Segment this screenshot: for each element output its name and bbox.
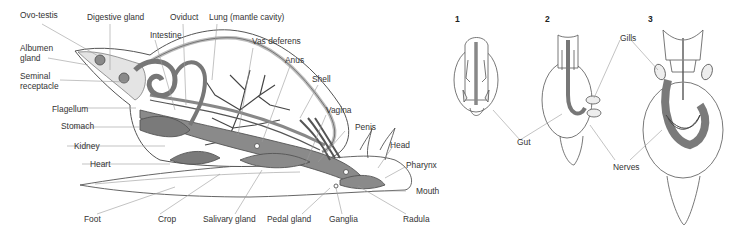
- label-lung-mantle-cavity: Lung (mantle cavity): [209, 12, 284, 22]
- torsion-stage-3-drawing: [643, 30, 723, 225]
- label-pedal-gland: Pedal gland: [267, 214, 311, 224]
- label-shell: Shell: [312, 74, 331, 84]
- label-nerves: Nerves: [613, 162, 640, 172]
- label-anus: Anus: [285, 55, 304, 65]
- label-head: Head: [390, 140, 410, 150]
- label-heart: Heart: [90, 159, 110, 169]
- label-intestine: Intestine: [150, 30, 182, 40]
- label-foot: Foot: [84, 214, 101, 224]
- panel-number-2: 2: [545, 14, 550, 24]
- label-gut: Gut: [517, 137, 531, 147]
- label-albumen-gland-line2: gland: [20, 53, 41, 63]
- label-vagina: Vagina: [326, 105, 351, 115]
- label-digestive-gland: Digestive gland: [87, 12, 144, 22]
- snail-anatomy-figure: Ovo-testis Digestive gland Oviduct Lung …: [0, 0, 740, 239]
- label-seminal-receptacle-line1: Seminal: [20, 71, 50, 81]
- label-mouth: Mouth: [416, 186, 439, 196]
- label-flagellum: Flagellum: [52, 104, 88, 114]
- label-ovo-testis: Ovo-testis: [20, 10, 58, 20]
- label-crop: Crop: [158, 214, 176, 224]
- label-ganglia: Ganglia: [329, 214, 358, 224]
- label-oviduct: Oviduct: [170, 12, 198, 22]
- label-kidney: Kidney: [74, 141, 100, 151]
- torsion-stage-2-drawing: [542, 35, 601, 165]
- panel-number-1: 1: [455, 14, 460, 24]
- label-pharynx: Pharynx: [406, 160, 437, 170]
- label-vas-deferens: Vas deferens: [252, 36, 301, 46]
- torsion-stage-1-drawing: [454, 38, 498, 116]
- snail-body-drawing: [75, 30, 412, 197]
- panel-number-3: 3: [648, 14, 653, 24]
- label-stomach: Stomach: [61, 121, 94, 131]
- label-gills: Gills: [620, 33, 636, 43]
- label-salivary-gland: Salivary gland: [203, 214, 256, 224]
- label-seminal-receptacle-line2: receptacle: [20, 81, 59, 91]
- label-penis: Penis: [355, 122, 376, 132]
- label-albumen-gland-line1: Albumen: [20, 43, 53, 53]
- label-radula: Radula: [403, 214, 430, 224]
